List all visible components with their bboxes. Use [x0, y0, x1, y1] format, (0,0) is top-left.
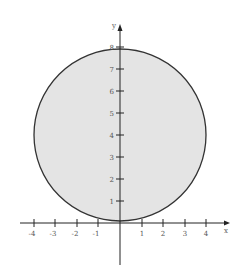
y-axis-label: y — [111, 22, 116, 30]
svg-text:-4: -4 — [29, 230, 36, 238]
svg-text:5: 5 — [110, 110, 114, 118]
svg-text:4: 4 — [110, 132, 115, 140]
svg-text:-1: -1 — [93, 230, 100, 238]
svg-text:1: 1 — [140, 230, 144, 238]
svg-text:7: 7 — [110, 66, 114, 74]
svg-text:6: 6 — [110, 88, 115, 96]
x-tick-labels: -4 -3 -2 -1 1 2 3 4 — [29, 230, 209, 238]
svg-text:4: 4 — [204, 230, 209, 238]
svg-text:3: 3 — [183, 230, 187, 238]
x-axis-arrow-icon — [224, 221, 230, 226]
graph-figure: x y -4 -3 -2 -1 1 2 3 4 1 2 3 4 — [0, 0, 241, 271]
y-axis-arrow-icon — [118, 24, 123, 31]
svg-text:3: 3 — [110, 154, 114, 162]
svg-text:-3: -3 — [50, 230, 57, 238]
svg-text:2: 2 — [161, 230, 165, 238]
svg-text:-2: -2 — [72, 230, 79, 238]
x-axis-label: x — [224, 227, 228, 235]
svg-text:1: 1 — [110, 198, 114, 206]
svg-text:2: 2 — [110, 176, 114, 184]
svg-text:8: 8 — [110, 44, 114, 52]
